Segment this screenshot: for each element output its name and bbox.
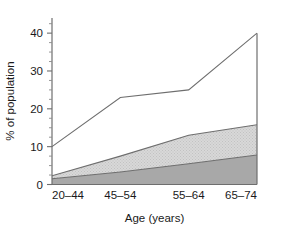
y-tick-label: 20: [30, 103, 43, 115]
x-axis-tick-labels: 20–4445–5455–6465–74: [52, 189, 258, 201]
y-tick-label: 0: [37, 179, 43, 191]
x-tick-label: 20–44: [52, 189, 85, 201]
x-tick-label: 45–54: [104, 189, 137, 201]
x-tick-label: 55–64: [173, 189, 206, 201]
x-axis-title: Age (years): [125, 212, 185, 224]
chart-container: 010203040 20–4445–5455–6465–74 Age (year…: [0, 0, 290, 230]
y-tick-label: 10: [30, 141, 43, 153]
y-tick-label: 30: [30, 65, 43, 77]
y-axis-ticks: [47, 33, 52, 184]
area-chart: 010203040 20–4445–5455–6465–74 Age (year…: [0, 0, 290, 230]
y-axis-title: % of population: [4, 61, 16, 140]
y-tick-label: 40: [30, 27, 43, 39]
x-tick-label: 65–74: [225, 189, 258, 201]
y-axis-tick-labels: 010203040: [30, 27, 43, 190]
